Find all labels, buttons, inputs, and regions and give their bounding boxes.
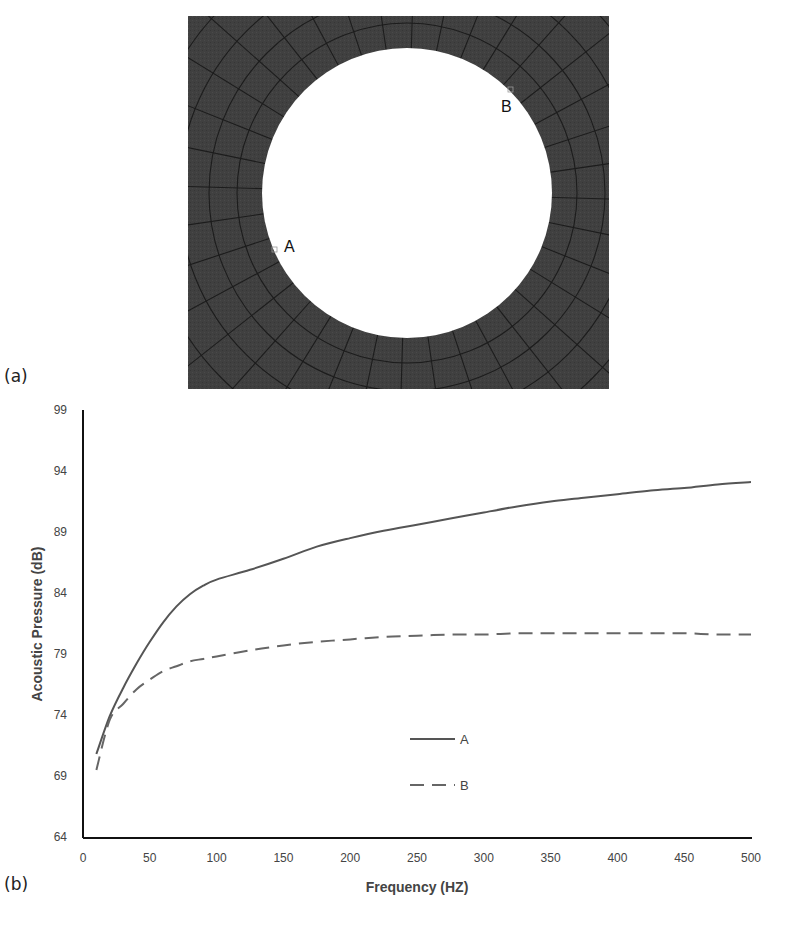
- x-tick-label: 0: [80, 851, 87, 865]
- y-tick-label: 79: [54, 647, 68, 661]
- y-tick-label: 74: [54, 708, 68, 722]
- x-tick-label: 350: [541, 851, 561, 865]
- legend: A B: [410, 732, 469, 793]
- y-tick-label: 94: [54, 464, 68, 478]
- x-tick-label: 150: [273, 851, 293, 865]
- x-tick-label: 200: [340, 851, 360, 865]
- y-axis-tick-labels: 6469747984899499: [54, 403, 68, 844]
- x-tick-label: 300: [474, 851, 494, 865]
- hole: [262, 48, 552, 338]
- y-tick-label: 64: [54, 830, 68, 844]
- y-axis-label: Acoustic Pressure (dB): [29, 547, 45, 702]
- point-b-label: B: [501, 98, 512, 115]
- x-tick-label: 50: [143, 851, 157, 865]
- x-tick-label: 450: [674, 851, 694, 865]
- acoustic-pressure-chart: 6469747984899499 05010015020025030035040…: [0, 395, 788, 926]
- legend-b-label: B: [460, 778, 469, 793]
- y-tick-label: 99: [54, 403, 68, 417]
- y-tick-label: 69: [54, 769, 68, 783]
- x-tick-label: 500: [741, 851, 761, 865]
- x-tick-label: 250: [407, 851, 427, 865]
- x-tick-label: 100: [207, 851, 227, 865]
- x-axis-tick-labels: 050100150200250300350400450500: [80, 851, 762, 865]
- series-a-line: [96, 482, 751, 754]
- figure: A B (a) 6469747984899499 050100150200250…: [0, 0, 788, 926]
- panel-a-label: (a): [4, 366, 28, 386]
- point-a-label: A: [284, 238, 295, 255]
- mesh-panel: A B: [188, 16, 609, 389]
- y-tick-label: 84: [54, 586, 68, 600]
- x-axis-label: Frequency (HZ): [366, 879, 469, 895]
- panel-b-label: (b): [4, 874, 28, 894]
- legend-a-label: A: [460, 732, 469, 747]
- series-b-line: [96, 633, 751, 770]
- y-tick-label: 89: [54, 525, 68, 539]
- x-tick-label: 400: [607, 851, 627, 865]
